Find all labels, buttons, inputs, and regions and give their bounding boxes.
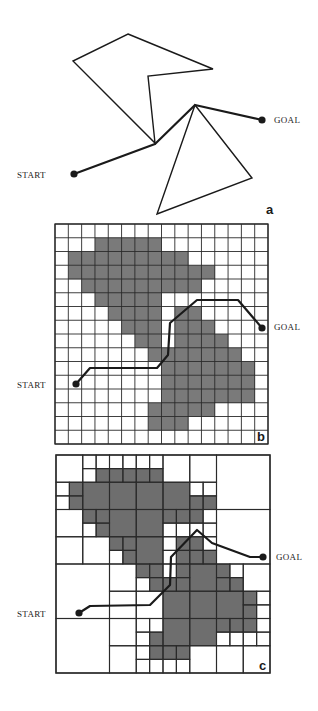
occupied-cell	[175, 279, 189, 293]
occupied-cell	[150, 564, 163, 578]
occupied-cell	[188, 320, 202, 334]
occupied-cell	[162, 265, 176, 279]
occupied-cell	[175, 252, 189, 266]
start-label: START	[17, 380, 46, 390]
occupied-cell	[176, 564, 189, 578]
quadtree-cell	[190, 455, 217, 482]
quadtree-cell	[136, 659, 149, 673]
occupied-cell	[69, 496, 82, 510]
occupied-cell	[69, 482, 82, 496]
quadtree-cell	[217, 632, 230, 646]
occupied-cell	[123, 537, 136, 551]
quadtree-cell	[96, 455, 109, 469]
occupied-cell	[150, 632, 163, 646]
quadtree-cell	[83, 455, 96, 469]
occupied-cell	[175, 320, 189, 334]
occupied-cell	[96, 510, 109, 524]
start-point-icon	[72, 380, 79, 387]
occupied-cell	[175, 348, 189, 362]
occupied-cell	[243, 591, 256, 605]
obstacle-polygon	[157, 105, 252, 214]
occupied-cell	[95, 238, 109, 252]
path-planning-figure: STARTGOALa STARTGOALb STARTGOALc	[0, 0, 318, 711]
occupied-cell	[162, 389, 176, 403]
occupied-cell	[122, 238, 136, 252]
quadtree-cell	[163, 659, 176, 673]
occupied-cell	[110, 537, 123, 551]
occupied-cell	[150, 578, 163, 592]
occupied-cell	[108, 265, 122, 279]
occupied-cell	[135, 279, 149, 293]
occupied-cell	[243, 605, 256, 619]
panel-c-quadtree: STARTGOALc	[17, 455, 302, 673]
goal-label: GOAL	[274, 115, 300, 125]
quadtree-cell	[163, 537, 176, 551]
occupied-cell	[188, 348, 202, 362]
occupied-cell	[230, 619, 243, 633]
quadtree-cell	[230, 632, 243, 646]
occupied-cell	[201, 265, 215, 279]
occupied-cell	[201, 403, 215, 417]
occupied-cell	[228, 389, 242, 403]
occupied-cell	[136, 564, 149, 578]
occupied-cell	[162, 252, 176, 266]
occupied-cell	[175, 362, 189, 376]
occupied-cell	[201, 334, 215, 348]
occupied-cell	[148, 403, 162, 417]
occupied-cell	[217, 591, 244, 618]
occupied-cell	[83, 510, 96, 524]
occupied-cell	[123, 469, 136, 483]
occupied-cell	[122, 279, 136, 293]
occupied-cell	[201, 375, 215, 389]
occupied-cell	[82, 265, 96, 279]
start-point-icon	[70, 170, 77, 177]
quadtree-cell	[163, 523, 176, 537]
occupied-cell	[176, 510, 189, 524]
occupied-cell	[188, 403, 202, 417]
occupied-cell	[96, 469, 109, 483]
quadtree-cell	[56, 510, 83, 537]
occupied-cell	[108, 307, 122, 321]
occupied-cell	[148, 307, 162, 321]
start-label: START	[17, 609, 46, 619]
occupied-cell	[135, 293, 149, 307]
occupied-cell	[215, 348, 229, 362]
occupied-cell	[108, 279, 122, 293]
occupied-cell	[136, 510, 163, 537]
quadtree-cell	[243, 632, 256, 646]
occupied-cell	[175, 417, 189, 431]
occupied-cell	[163, 646, 176, 660]
quadtree-cell	[203, 482, 216, 496]
occupied-cell	[135, 320, 149, 334]
occupied-cell	[188, 334, 202, 348]
goal-point-icon	[258, 324, 265, 331]
start-point-icon	[75, 609, 82, 616]
goal-point-icon	[259, 553, 266, 560]
quadtree-cell	[150, 619, 163, 633]
occupied-cell	[175, 403, 189, 417]
occupied-cell	[123, 550, 136, 564]
occupied-cell	[122, 265, 136, 279]
quadtree-cell	[243, 564, 270, 591]
occupied-cell	[82, 279, 96, 293]
occupied-cell	[148, 279, 162, 293]
occupied-cell	[148, 265, 162, 279]
occupied-cell	[148, 417, 162, 431]
occupied-cell	[122, 320, 136, 334]
occupied-cell	[148, 238, 162, 252]
occupied-cell	[150, 646, 163, 660]
occupied-cell	[217, 564, 230, 578]
occupied-cell	[243, 619, 256, 633]
occupied-cell	[188, 265, 202, 279]
occupied-cell	[241, 375, 255, 389]
occupied-cell	[215, 362, 229, 376]
occupied-cell	[176, 646, 189, 660]
quadtree-cell	[110, 564, 137, 591]
quadtree-cell	[257, 605, 270, 619]
occupied-cell	[163, 591, 190, 618]
quadtree-cell	[230, 564, 243, 578]
occupied-cell	[176, 578, 189, 592]
occupied-cell	[135, 265, 149, 279]
occupied-cell	[175, 265, 189, 279]
occupied-cell	[175, 389, 189, 403]
